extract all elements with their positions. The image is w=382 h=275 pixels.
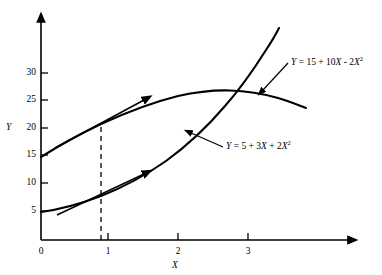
equation-label-curve-1: Y = 15 + 10X - 2X2 [291,58,363,68]
y-tick-label-5: 5 [22,206,36,216]
y-tick-label-25: 25 [22,95,36,105]
eq2-body: = 5 + 3 [231,141,261,151]
y-axis-title: Y [6,123,11,133]
plot-graphic [0,0,382,275]
x-tick-label-3: 3 [243,247,253,257]
y-tick-label-10: 10 [22,178,36,188]
x-tick-label-1: 1 [103,247,113,257]
x-axis-title: X [172,261,178,271]
eq1-exp: 2 [360,55,363,62]
x-axis-ticks [108,233,248,240]
figure-canvas: 30 25 20 15 10 5 0 1 2 3 Y X Y = 15 + 10… [0,0,382,275]
curve-quadratic-concave-up [41,28,279,212]
callout-leader-curve1 [263,63,288,90]
eq2-exp: 2 [288,139,291,146]
y-axis-ticks [41,73,48,211]
x-tick-label-2: 2 [173,247,183,257]
callout-leader-curve2 [191,133,223,147]
eq1-mid: - 2 [341,57,354,67]
tangent-line-upper-curve [55,100,144,148]
equation-label-curve-2: Y = 5 + 3X + 2X2 [226,142,291,152]
y-tick-label-20: 20 [22,123,36,133]
x-tick-label-0: 0 [36,247,46,257]
y-tick-label-15: 15 [22,150,36,160]
eq2-mid: + 2 [267,141,282,151]
y-tick-label-30: 30 [22,68,36,78]
eq1-body: = 15 + 10 [296,57,335,67]
